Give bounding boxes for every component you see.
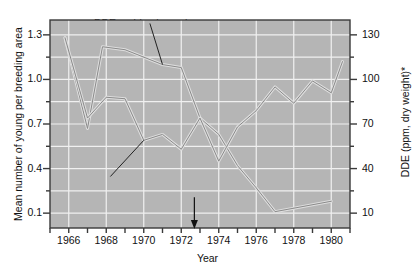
plot-svg xyxy=(0,0,415,269)
chart-container: Mean number of young per breeding area D… xyxy=(0,0,415,269)
